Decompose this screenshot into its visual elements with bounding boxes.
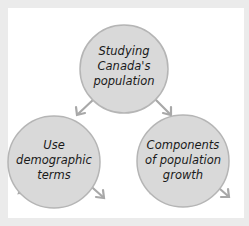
node-root-label: Studying Canada's population [84, 44, 164, 89]
label-line: Use [12, 138, 96, 153]
label-line: terms [12, 168, 96, 183]
label-line: of population [139, 153, 227, 168]
arrow-root-left [78, 99, 94, 114]
node-left-label: Use demographic terms [12, 138, 96, 183]
label-line: population [84, 74, 164, 89]
label-line: demographic [12, 153, 96, 168]
node-right-label: Components of population growth [139, 138, 227, 183]
arrow-root-right [155, 99, 170, 114]
label-line: Components [139, 138, 227, 153]
label-line: growth [139, 168, 227, 183]
label-line: Studying [84, 44, 164, 59]
label-line: Canada's [84, 59, 164, 74]
diagram-canvas [0, 0, 249, 226]
